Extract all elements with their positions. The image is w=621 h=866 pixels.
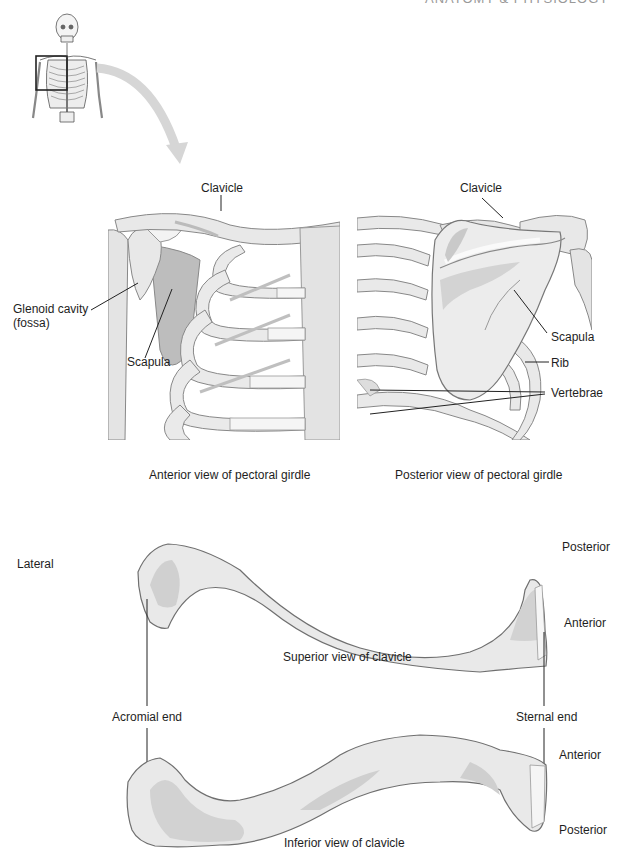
label-lateral: Lateral (17, 557, 54, 571)
posterior-view-illustration (357, 208, 592, 440)
label-vertebrae: Vertebrae (551, 386, 603, 400)
label-acromial-end: Acromial end (112, 710, 182, 724)
caption-superior-clavicle: Superior view of clavicle (283, 650, 412, 664)
label-posterior-scapula: Scapula (551, 330, 594, 344)
caption-posterior-view: Posterior view of pectoral girdle (395, 468, 562, 482)
label-posterior-clavicle: Clavicle (460, 181, 502, 195)
label-anterior-clavicle: Clavicle (201, 181, 243, 195)
label-inferior-posterior: Posterior (559, 823, 607, 837)
skeleton-thumbnail-icon (33, 14, 102, 122)
label-superior-posterior: Posterior (562, 540, 610, 554)
label-superior-anterior: Anterior (564, 616, 606, 630)
label-glenoid-cavity: Glenoid cavity (13, 302, 88, 316)
anterior-view-illustration (108, 208, 340, 440)
label-sternal-end: Sternal end (516, 710, 577, 724)
label-glenoid-fossa: (fossa) (13, 316, 50, 330)
caption-anterior-view: Anterior view of pectoral girdle (149, 468, 310, 482)
diagram-artwork (0, 0, 621, 866)
curved-arrow-icon (97, 68, 188, 164)
label-inferior-anterior: Anterior (559, 748, 601, 762)
label-anterior-scapula: Scapula (127, 355, 170, 369)
caption-inferior-clavicle: Inferior view of clavicle (284, 836, 405, 850)
inferior-clavicle-illustration (127, 735, 547, 847)
label-rib: Rib (551, 356, 569, 370)
